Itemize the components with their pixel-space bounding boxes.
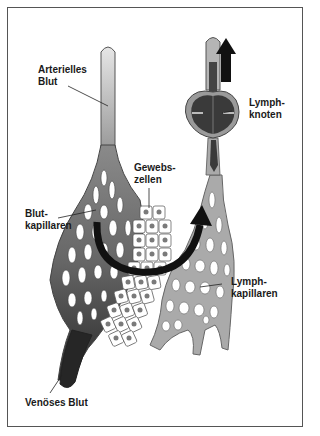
label-lymph-capillaries: Lymph- kapillaren (231, 276, 278, 300)
venous-vessel (60, 330, 92, 388)
label-lymph-node: Lymph- knoten (249, 97, 285, 121)
lymph-node (185, 91, 239, 138)
label-arterial-blood: Arterielles Blut (38, 64, 87, 88)
label-venous-blood: Venöses Blut (25, 397, 88, 409)
arterial-vessel (101, 47, 115, 148)
label-blood-capillaries: Blut- kapillaren (25, 208, 72, 232)
label-tissue-cells: Gewebs- zellen (134, 162, 176, 186)
